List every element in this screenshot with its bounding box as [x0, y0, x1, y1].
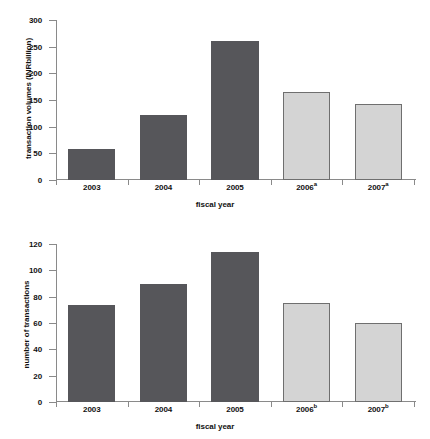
bar-2003[interactable]	[68, 305, 115, 402]
y-tick	[49, 153, 56, 154]
plot-area: 050100150200250300	[56, 20, 414, 180]
y-tick-label: 50	[33, 149, 42, 158]
x-tick-label-2003: 2003	[56, 405, 128, 414]
y-tick-label: 120	[29, 240, 42, 249]
bar-slot	[128, 244, 200, 402]
bar-slot	[128, 20, 200, 180]
y-tick	[49, 349, 56, 350]
x-tick-label-group: 2003200420052006b2007b	[56, 405, 414, 414]
y-tick-label: 100	[29, 266, 42, 275]
x-tick-label-2005: 2005	[199, 405, 271, 414]
bar-2006[interactable]	[283, 92, 330, 180]
bar-slot	[56, 20, 128, 180]
bar-2005[interactable]	[211, 252, 258, 402]
plot-area: 020406080100120	[56, 244, 414, 402]
y-tick	[49, 73, 56, 74]
y-tick	[49, 297, 56, 298]
y-tick	[49, 244, 56, 245]
y-tick-label: 100	[29, 122, 42, 131]
chart-number-of-transactions: number of transactions 020406080100120 2…	[0, 220, 430, 439]
x-tick-label-2003: 2003	[56, 183, 128, 192]
x-tick	[414, 180, 415, 185]
bar-slot	[199, 244, 271, 402]
y-tick	[49, 20, 56, 21]
bar-group	[56, 244, 414, 402]
chart-transaction-volumes: transaction volumes (INRbillion) 0501001…	[0, 0, 430, 220]
y-tick-label: 150	[29, 96, 42, 105]
footnote-marker: b	[385, 403, 389, 409]
x-tick-label-2004: 2004	[128, 405, 200, 414]
x-axis-title: fiscal year	[0, 200, 430, 209]
y-tick	[49, 180, 56, 181]
x-tick-label-2004: 2004	[128, 183, 200, 192]
y-tick-label: 0	[38, 398, 42, 407]
footnote-marker: a	[385, 181, 388, 187]
y-tick	[49, 402, 56, 403]
y-tick-label: 20	[33, 371, 42, 380]
bar-slot	[342, 20, 414, 180]
y-tick	[49, 323, 56, 324]
bar-2004[interactable]	[140, 115, 187, 180]
y-tick	[49, 376, 56, 377]
y-tick-label: 80	[33, 292, 42, 301]
y-tick-label: 60	[33, 319, 42, 328]
bar-2005[interactable]	[211, 41, 258, 180]
y-tick-label: 200	[29, 69, 42, 78]
x-tick-label-2007: 2007b	[342, 405, 414, 414]
bar-group	[56, 20, 414, 180]
bar-slot	[199, 20, 271, 180]
y-tick	[49, 100, 56, 101]
y-tick-label: 40	[33, 345, 42, 354]
bar-2007[interactable]	[355, 323, 402, 402]
y-tick-label: 250	[29, 42, 42, 51]
bar-slot	[271, 244, 343, 402]
bar-slot	[271, 20, 343, 180]
y-tick	[49, 270, 56, 271]
bar-2006[interactable]	[283, 303, 330, 402]
y-tick	[49, 47, 56, 48]
bar-2007[interactable]	[355, 104, 402, 180]
x-tick-label-2007: 2007a	[342, 183, 414, 192]
y-tick-label: 300	[29, 16, 42, 25]
bar-slot	[342, 244, 414, 402]
footnote-marker: b	[313, 403, 317, 409]
x-tick	[414, 402, 415, 407]
x-tick-label-2005: 2005	[199, 183, 271, 192]
y-tick	[49, 127, 56, 128]
x-tick-label-2006: 2006a	[271, 183, 343, 192]
x-tick-label-group: 2003200420052006a2007a	[56, 183, 414, 192]
bar-2004[interactable]	[140, 284, 187, 403]
bar-2003[interactable]	[68, 149, 115, 180]
footnote-marker: a	[314, 181, 317, 187]
bar-slot	[56, 244, 128, 402]
figure-panel: transaction volumes (INRbillion) 0501001…	[0, 0, 430, 439]
y-axis-title: number of transactions	[22, 255, 31, 395]
x-axis-title: fiscal year	[0, 422, 430, 431]
x-tick-label-2006: 2006b	[271, 405, 343, 414]
y-tick-label: 0	[38, 176, 42, 185]
